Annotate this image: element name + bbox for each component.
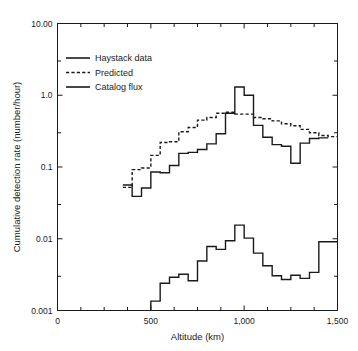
- x-tick-label: 0: [55, 316, 60, 326]
- x-axis-title: Altitude (km): [171, 331, 224, 342]
- detection-rate-chart: 05001,0001,5000.0010.010.11.010.00 Hayst…: [0, 0, 358, 351]
- legend-label-catalog-flux: Catalog flux: [95, 82, 143, 92]
- axes-group: 05001,0001,5000.0010.010.11.010.00: [31, 19, 348, 326]
- chart-figure: 05001,0001,5000.0010.010.11.010.00 Hayst…: [0, 0, 358, 351]
- legend-label-haystack-data: Haystack data: [95, 53, 152, 63]
- chart-legend: Haystack dataPredictedCatalog flux: [66, 53, 152, 92]
- series-catalog-flux: [151, 225, 338, 310]
- series-haystack-data: [123, 87, 328, 196]
- y-axis-title: Cumulative detection rate (number/hour): [11, 82, 22, 253]
- y-tick-label: 1.0: [41, 90, 53, 100]
- y-tick-label: 0.001: [31, 306, 53, 316]
- y-tick-label: 0.01: [36, 234, 53, 244]
- series-group: [123, 87, 338, 310]
- axis-titles-group: Altitude (km)Cumulative detection rate (…: [11, 82, 224, 342]
- x-tick-label: 1,500: [327, 316, 349, 326]
- x-tick-label: 500: [144, 316, 158, 326]
- x-tick-label: 1,000: [234, 316, 256, 326]
- legend-label-predicted: Predicted: [95, 68, 133, 78]
- series-predicted: [123, 112, 338, 187]
- y-tick-label: 0.1: [41, 162, 53, 172]
- y-tick-label: 10.00: [31, 19, 53, 29]
